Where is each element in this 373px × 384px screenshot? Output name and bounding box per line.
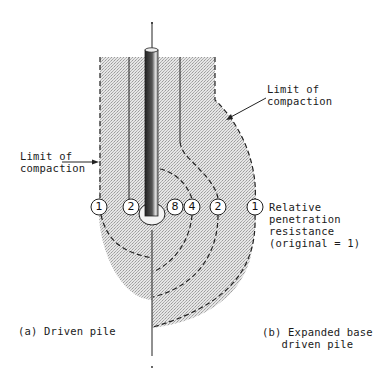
contour-value-right-8: 8: [167, 199, 183, 215]
contour-value-left-1: 1: [91, 199, 107, 215]
pile-top: [145, 48, 158, 52]
right-compaction-zone: [152, 57, 256, 328]
pile-shaft: [145, 50, 158, 216]
relative-penetration-resistance-label: Relative penetration resistance (origina…: [269, 201, 360, 249]
contour-value-left-2: 2: [123, 199, 139, 215]
limit-of-compaction-right: Limit of compaction: [267, 83, 332, 107]
contour-value-right-1: 1: [247, 199, 263, 215]
contour-value-right-4: 4: [184, 199, 200, 215]
right-limit-arrow: [229, 98, 266, 118]
contour-value-right-2: 2: [210, 199, 226, 215]
left-compaction-zone: [99, 57, 152, 300]
caption-driven-pile: (a) Driven pile: [18, 325, 116, 337]
caption-expanded-base-driven-pile: (b) Expanded base driven pile: [262, 326, 373, 350]
limit-of-compaction-left: Limit of compaction: [20, 150, 85, 174]
